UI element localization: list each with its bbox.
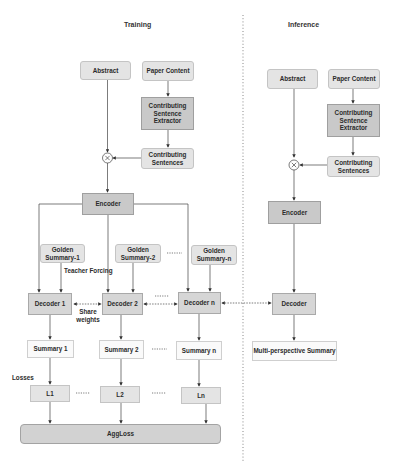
inference-extractor-box: Contributing Sentence Extractor [327,104,380,137]
golden-summary-1-box: Golden Summary-1 [40,244,85,263]
training-title: Training [124,21,151,28]
loss-ln-box: Ln [181,387,221,404]
decoder-2-box: Decoder 2 [102,293,143,315]
summary-1-box: Summary 1 [27,340,74,358]
loss-l2-box: L2 [100,386,140,403]
summary-2-box: Summary 2 [99,340,144,359]
agg-loss-box: AggLoss [20,424,221,444]
golden-summary-n-box: Golden Summary-n [191,245,237,265]
inference-paper-content-box: Paper Content [328,69,380,89]
inference-title: Inference [288,21,319,28]
training-contributing-sentences-box: Contributing Sentences [141,148,194,169]
decoder-1-box: Decoder 1 [28,293,72,315]
inference-decoder-box: Decoder [272,293,316,315]
summary-n-box: Summary n [176,341,222,360]
losses-label: Losses [12,374,34,382]
multi-perspective-summary-box: Multi-perspective Summary [252,341,337,361]
training-extractor-box: Contributing Sentence Extractor [141,97,194,130]
golden-summary-2-box: Golden Summary-2 [115,244,161,263]
inference-abstract-box: Abstract [267,69,318,89]
teacher-forcing-label: Teacher Forcing [64,267,113,275]
training-abstract-box: Abstract [80,61,131,80]
loss-l1-box: L1 [30,385,70,402]
share-weights-label: Share weights [74,308,102,324]
training-paper-content-box: Paper Content [142,61,194,81]
decoder-n-box: Decoder n [178,292,221,314]
training-encoder-box: Encoder [82,193,134,215]
inference-contributing-sentences-box: Contributing Sentences [327,156,380,177]
inference-encoder-box: Encoder [268,201,321,224]
